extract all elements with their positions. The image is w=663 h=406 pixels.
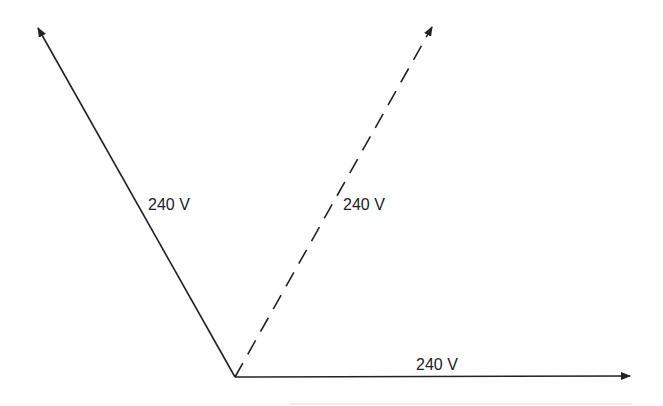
left-vector-label: 240 V (148, 197, 190, 213)
dashed-vector-label: 240 V (343, 197, 385, 213)
phasor-diagram (0, 0, 663, 406)
dashed-vector (235, 27, 432, 377)
horizontal-vector (235, 376, 630, 377)
left-vector (38, 28, 235, 377)
horizontal-vector-label: 240 V (416, 357, 458, 373)
